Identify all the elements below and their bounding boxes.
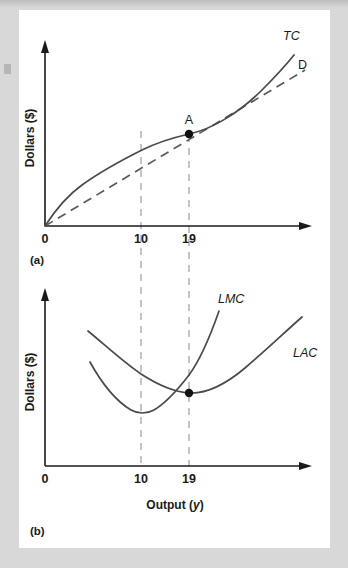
curve-label-lmc: LMC bbox=[218, 292, 245, 306]
panel-a-tick-10: 10 bbox=[134, 232, 148, 246]
panel-a-label: (a) bbox=[30, 254, 44, 266]
point-a-label: A bbox=[185, 113, 194, 127]
panel-b-label: (b) bbox=[30, 525, 45, 537]
panel-b-tick-19: 19 bbox=[182, 472, 196, 486]
curve-d-ray bbox=[45, 70, 305, 226]
economics-cost-curves-figure: A TC D Dollars ($) 0 10 19 (a) bbox=[0, 0, 348, 568]
panel-b: LMC LAC Dollars ($) 0 10 19 Output (y) (… bbox=[23, 288, 318, 537]
figure-page: A TC D Dollars ($) 0 10 19 (a) bbox=[0, 0, 348, 568]
panel-b-x-axis-title: Output (y) bbox=[146, 498, 203, 512]
panel-b-intersection-marker bbox=[185, 389, 193, 397]
point-a-marker bbox=[185, 130, 193, 138]
curve-label-d: D bbox=[298, 58, 307, 72]
panel-b-y-axis-arrow bbox=[41, 288, 49, 301]
panel-b-tick-0: 0 bbox=[42, 472, 49, 486]
panel-b-y-axis-title: Dollars ($) bbox=[23, 353, 37, 412]
panel-a-x-axis-arrow bbox=[299, 222, 312, 230]
curve-tc-total-cost bbox=[45, 55, 294, 226]
panel-a-y-axis-arrow bbox=[41, 40, 49, 53]
curve-label-lac: LAC bbox=[293, 346, 318, 360]
guide-lines bbox=[141, 131, 189, 466]
panel-a-y-axis-title: Dollars ($) bbox=[23, 109, 37, 168]
panel-a: A TC D Dollars ($) 0 10 19 (a) bbox=[23, 29, 312, 266]
panel-a-tick-19: 19 bbox=[182, 232, 196, 246]
curve-lac-long-run-average-cost bbox=[88, 317, 302, 393]
curve-label-tc: TC bbox=[283, 29, 301, 43]
panel-b-x-axis-arrow bbox=[299, 462, 312, 470]
panel-b-x-axis-title-main: Output ( bbox=[146, 498, 193, 512]
panel-b-tick-10: 10 bbox=[134, 472, 148, 486]
panel-a-tick-0: 0 bbox=[42, 232, 49, 246]
curve-lmc-long-run-marginal-cost bbox=[90, 311, 219, 413]
panel-b-x-axis-title-close: ) bbox=[200, 498, 204, 512]
